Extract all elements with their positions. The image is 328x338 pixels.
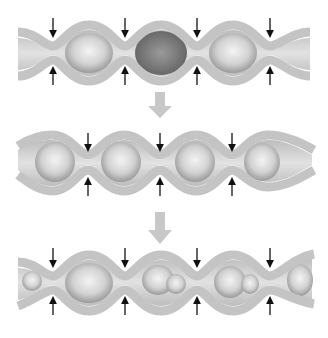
bolus: [35, 142, 75, 182]
bolus: [166, 274, 186, 294]
step-arrow-icon: [148, 212, 172, 244]
peristalsis-diagram: [0, 0, 328, 338]
bolus: [65, 263, 113, 303]
bolus: [209, 33, 257, 73]
bolus: [65, 33, 113, 73]
stage-3: [18, 248, 314, 315]
bolus: [101, 142, 141, 182]
step-arrow-icon: [148, 92, 172, 118]
bolus: [175, 142, 215, 182]
stage-1: [18, 18, 310, 85]
bolus: [241, 274, 259, 294]
stage-2: [18, 133, 314, 196]
